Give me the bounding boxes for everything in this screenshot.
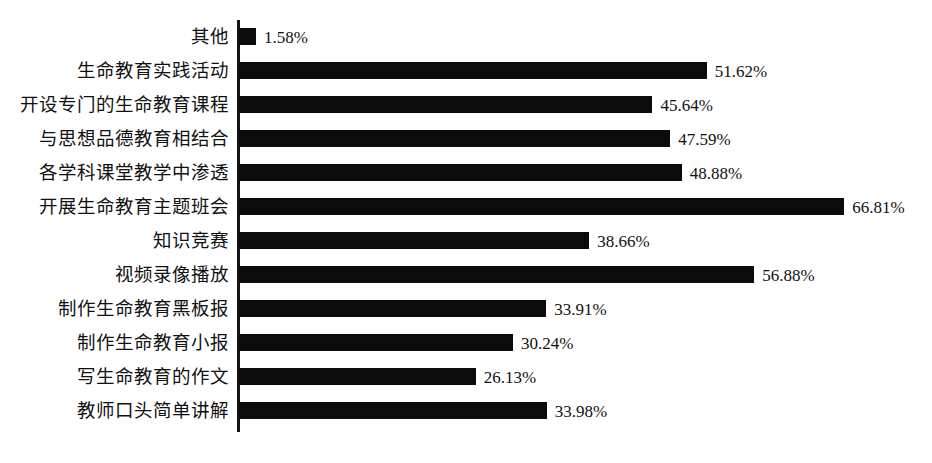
bar: [239, 232, 589, 249]
bar-row: 开设专门的生命教育课程45.64%: [0, 88, 932, 122]
category-label: 其他: [0, 20, 229, 54]
bar-row: 其他1.58%: [0, 20, 932, 54]
bar-row: 与思想品德教育相结合47.59%: [0, 122, 932, 156]
bar-row: 开展生命教育主题班会66.81%: [0, 190, 932, 224]
bar: [239, 164, 682, 181]
bar: [239, 266, 754, 283]
category-label: 与思想品德教育相结合: [0, 122, 229, 156]
bar-value-label: 38.66%: [597, 224, 649, 258]
category-label: 教师口头简单讲解: [0, 394, 229, 428]
bar: [239, 130, 670, 147]
category-label: 制作生命教育黑板报: [0, 292, 229, 326]
bar-row: 制作生命教育小报30.24%: [0, 326, 932, 360]
bar-value-label: 33.98%: [555, 394, 607, 428]
bar: [239, 300, 546, 317]
bar-value-label: 51.62%: [715, 54, 767, 88]
bar: [239, 28, 256, 45]
bar-row: 教师口头简单讲解33.98%: [0, 394, 932, 428]
bar-row: 写生命教育的作文26.13%: [0, 360, 932, 394]
bar-row: 视频录像播放56.88%: [0, 258, 932, 292]
bar-value-label: 26.13%: [484, 360, 536, 394]
bar: [239, 62, 707, 79]
bar: [239, 96, 652, 113]
bar-value-label: 56.88%: [762, 258, 814, 292]
category-label: 写生命教育的作文: [0, 360, 229, 394]
bar: [239, 334, 513, 351]
bar-value-label: 1.58%: [264, 20, 308, 54]
bar-value-label: 48.88%: [690, 156, 742, 190]
bar-value-label: 33.91%: [554, 292, 606, 326]
category-label: 生命教育实践活动: [0, 54, 229, 88]
category-label: 开展生命教育主题班会: [0, 190, 229, 224]
category-label: 开设专门的生命教育课程: [0, 88, 229, 122]
bar-row: 制作生命教育黑板报33.91%: [0, 292, 932, 326]
category-label: 各学科课堂教学中渗透: [0, 156, 229, 190]
category-label: 视频录像播放: [0, 258, 229, 292]
bar: [239, 368, 476, 385]
bar: [239, 198, 844, 215]
bar-row: 各学科课堂教学中渗透48.88%: [0, 156, 932, 190]
bar-value-label: 45.64%: [660, 88, 712, 122]
category-label: 制作生命教育小报: [0, 326, 229, 360]
bar-value-label: 66.81%: [852, 190, 904, 224]
bar-value-label: 30.24%: [521, 326, 573, 360]
bar: [239, 402, 547, 419]
horizontal-bar-chart: 其他1.58%生命教育实践活动51.62%开设专门的生命教育课程45.64%与思…: [0, 0, 932, 463]
bar-row: 知识竞赛38.66%: [0, 224, 932, 258]
bar-row: 生命教育实践活动51.62%: [0, 54, 932, 88]
category-label: 知识竞赛: [0, 224, 229, 258]
bar-value-label: 47.59%: [678, 122, 730, 156]
